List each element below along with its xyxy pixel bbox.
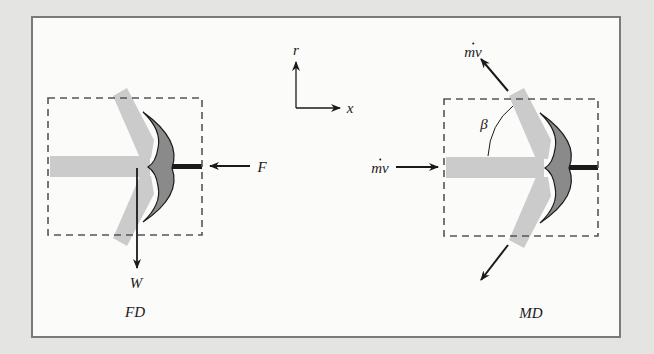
water-jet-fd bbox=[50, 88, 154, 246]
deflection-angle-arc bbox=[488, 106, 513, 156]
momentum-diagram bbox=[396, 59, 598, 280]
figure-stage: F W FD r x mv mv β MD bbox=[0, 0, 654, 354]
weight-w-label: W bbox=[130, 276, 143, 291]
mass-flow-dot: mv bbox=[371, 161, 389, 176]
force-f-label: F bbox=[257, 160, 266, 175]
outflow-momentum-lower-arrow bbox=[481, 245, 508, 280]
inflow-momentum-label: mv bbox=[371, 161, 389, 176]
outflow-momentum-upper-label: mv bbox=[464, 45, 482, 60]
vane-rod-md bbox=[569, 165, 598, 170]
md-caption: MD bbox=[519, 306, 542, 321]
axis-r-label: r bbox=[293, 43, 299, 58]
vane-rod-fd bbox=[172, 164, 202, 169]
free-body-diagram bbox=[48, 88, 250, 268]
mass-flow-dot: mv bbox=[464, 45, 482, 60]
beta-label: β bbox=[480, 117, 487, 132]
outflow-momentum-upper-arrow bbox=[481, 59, 508, 91]
fd-caption: FD bbox=[125, 305, 145, 320]
coordinate-axes bbox=[296, 62, 340, 108]
water-jet-md bbox=[446, 88, 551, 248]
diagram-canvas bbox=[0, 0, 654, 354]
axis-x-label: x bbox=[347, 101, 354, 116]
